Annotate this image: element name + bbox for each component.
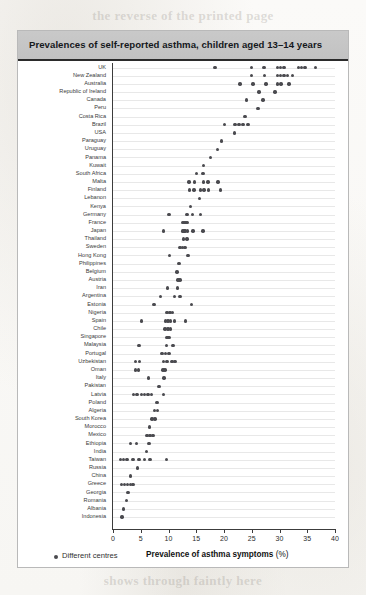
data-point [199,213,202,216]
data-point [263,74,266,77]
data-point [185,221,188,224]
y-axis-label: Finland [18,187,106,193]
gridline [113,157,335,158]
data-point [135,442,138,445]
gridline [113,492,335,493]
gridline [113,264,335,265]
data-point [220,139,223,142]
y-axis-label: USA [18,130,106,136]
y-axis-label: China [18,473,106,479]
gridline [113,223,335,224]
data-point [173,360,176,363]
gridline [113,509,335,510]
data-point [264,82,267,85]
data-point [273,90,276,93]
y-axis-label: Iran [18,285,106,291]
data-point [147,376,150,379]
y-axis-label: Japan [18,228,106,234]
data-point [131,483,134,486]
x-axis-tick-label: 0 [101,535,125,542]
y-axis-label: Taiwan [18,457,106,463]
x-axis-tick [280,529,281,533]
data-point [135,393,138,396]
data-point [155,401,158,404]
y-axis-label: Greece [18,481,106,487]
data-point [262,66,265,69]
data-point [137,368,140,371]
y-axis-label: Albania [18,506,106,512]
scanned-page: the reverse of the printed page shows th… [0,0,366,595]
y-axis-label: Hong Kong [18,253,106,259]
y-axis-label: Brazil [18,122,106,128]
gridline [113,174,335,175]
data-point [246,123,249,126]
data-point [187,180,190,183]
y-axis-label: Thailand [18,236,106,242]
data-point [148,458,151,461]
y-axis-label: Poland [18,400,106,406]
data-point [198,197,201,200]
data-point [171,344,174,347]
gridline [113,288,335,289]
gridline [113,255,335,256]
data-point [122,507,125,510]
x-axis-tick-label: 25 [240,535,264,542]
ghost-text-bottom: shows through faintly here [0,573,366,589]
gridline [113,501,335,502]
gridline [113,92,335,93]
data-point [136,466,139,469]
gridline [113,329,335,330]
x-axis-tick-label: 15 [184,535,208,542]
data-point [202,180,205,183]
data-point [250,74,253,77]
data-point [162,393,165,396]
y-axis-label: Peru [18,105,106,111]
data-point [177,262,180,265]
plot-grid [113,63,335,529]
data-point [191,229,194,232]
y-axis-label: Italy [18,375,106,381]
y-axis-label: Indonesia [18,514,106,520]
data-point [256,107,259,110]
data-point [163,368,166,371]
data-point [171,311,174,314]
data-point [314,66,317,69]
data-point [143,458,146,461]
data-point [178,295,181,298]
data-point [195,172,198,175]
plot-area: UKNew ZealandAustraliaRepublic of Irelan… [18,63,348,569]
data-point [167,213,170,216]
x-axis-tick [113,529,114,533]
data-point [223,123,226,126]
data-point [219,188,222,191]
x-axis-tick-label: 5 [129,535,153,542]
data-point [201,172,204,175]
y-axis-label: Belgium [18,269,106,275]
gridline [113,141,335,142]
y-axis-label: Paraguay [18,138,106,144]
y-axis-label: Malta [18,179,106,185]
data-point [169,319,172,322]
data-point [287,82,290,85]
data-point [183,246,186,249]
gridline [113,305,335,306]
data-point [185,237,188,240]
gridline [113,468,335,469]
y-axis-label: Argentina [18,293,106,299]
gridline [113,362,335,363]
y-axis-label: Costa Rica [18,114,106,120]
y-axis-label: Latvia [18,392,106,398]
gridline [113,403,335,404]
y-axis-label: Uzbekistan [18,359,106,365]
x-axis-tick-label: 40 [323,535,347,542]
data-point [147,442,150,445]
data-point [157,385,160,388]
chart-legend: Different centres Prevalence of asthma s… [18,550,348,568]
gridline [113,84,335,85]
y-axis-label: Nigeria [18,310,106,316]
y-axis-line [112,63,113,529]
data-point [165,344,168,347]
y-axis-label: Uruguay [18,146,106,152]
data-point [257,90,260,93]
gridline [113,484,335,485]
